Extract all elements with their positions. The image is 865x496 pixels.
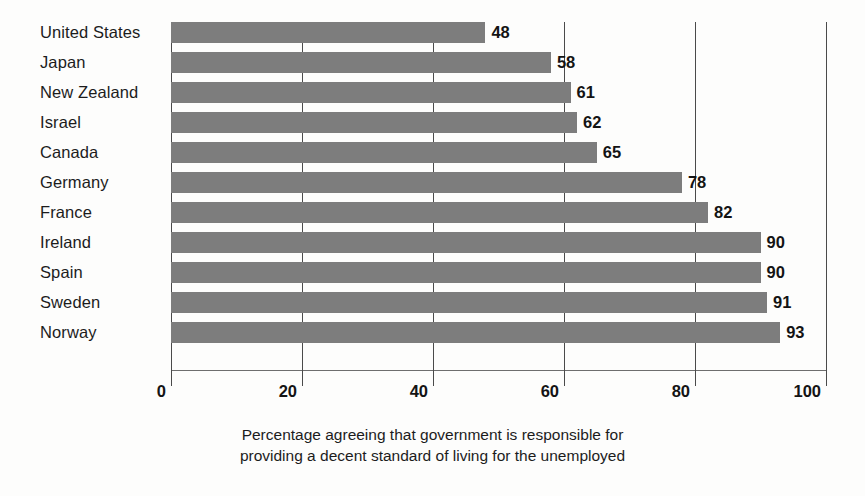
bar-row: Sweden91 — [0, 292, 865, 322]
caption-line-1: Percentage agreeing that government is r… — [0, 424, 865, 445]
bar-row: France82 — [0, 202, 865, 232]
bar-value-label: 62 — [583, 112, 601, 133]
bar — [171, 112, 577, 133]
bar — [171, 22, 485, 43]
caption-line-2: providing a decent standard of living fo… — [0, 445, 865, 466]
category-label: Norway — [40, 322, 97, 343]
bar-value-label: 58 — [557, 52, 575, 73]
bar-row: Israel62 — [0, 112, 865, 142]
category-label: France — [40, 202, 92, 223]
x-tick-label-20: 20 — [279, 380, 302, 402]
category-label: Israel — [40, 112, 81, 133]
tick-mark-80 — [695, 370, 696, 386]
tick-mark-100 — [826, 370, 827, 386]
bar — [171, 202, 708, 223]
bar-value-label: 90 — [767, 232, 785, 253]
bar-row: Japan58 — [0, 52, 865, 82]
bar — [171, 172, 682, 193]
x-tick-label-60: 60 — [541, 380, 564, 402]
bar-value-label: 61 — [577, 82, 595, 103]
bar-value-label: 93 — [786, 322, 804, 343]
bar-row: Spain90 — [0, 262, 865, 292]
bar-row: United States48 — [0, 22, 865, 52]
bar-row: New Zealand61 — [0, 82, 865, 112]
x-tick-label-80: 80 — [672, 380, 695, 402]
tick-mark-0 — [171, 370, 172, 386]
category-label: Spain — [40, 262, 83, 283]
bar — [171, 262, 761, 283]
bar — [171, 292, 767, 313]
bar — [171, 52, 551, 73]
category-label: United States — [40, 22, 140, 43]
tick-mark-60 — [564, 370, 565, 386]
bar-value-label: 82 — [714, 202, 732, 223]
x-tick-label-0: 0 — [157, 380, 171, 402]
bar-value-label: 78 — [688, 172, 706, 193]
bar-row: Norway93 — [0, 322, 865, 352]
category-label: Ireland — [40, 232, 91, 253]
bar-row: Canada65 — [0, 142, 865, 172]
chart-caption: Percentage agreeing that government is r… — [0, 424, 865, 466]
bar — [171, 232, 761, 253]
category-label: Sweden — [40, 292, 100, 313]
bar-row: Germany78 — [0, 172, 865, 202]
category-label: Germany — [40, 172, 109, 193]
bar — [171, 82, 571, 103]
category-label: Canada — [40, 142, 98, 163]
x-tick-label-40: 40 — [410, 380, 433, 402]
x-tick-label-100: 100 — [793, 380, 826, 402]
x-axis-baseline — [171, 370, 827, 371]
bar — [171, 142, 597, 163]
bar-value-label: 91 — [773, 292, 791, 313]
category-label: New Zealand — [40, 82, 138, 103]
bar — [171, 322, 780, 343]
tick-mark-40 — [433, 370, 434, 386]
category-label: Japan — [40, 52, 85, 73]
bar-value-label: 65 — [603, 142, 621, 163]
bar-value-label: 90 — [767, 262, 785, 283]
tick-mark-20 — [302, 370, 303, 386]
bar-value-label: 48 — [491, 22, 509, 43]
bar-chart: United States48Japan58New Zealand61Israe… — [0, 0, 865, 496]
bar-row: Ireland90 — [0, 232, 865, 262]
